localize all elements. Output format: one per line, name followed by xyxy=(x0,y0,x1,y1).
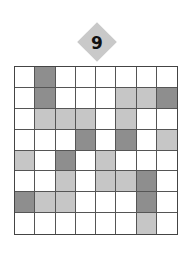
grid-cell-r7-c1[interactable] xyxy=(35,213,55,234)
grid-cell-r6-c2[interactable] xyxy=(56,192,76,213)
grid-cell-r0-c2[interactable] xyxy=(56,67,76,88)
grid-cell-r2-c7[interactable] xyxy=(157,109,177,130)
grid-cell-r0-c3[interactable] xyxy=(76,67,96,88)
grid-cell-r6-c1[interactable] xyxy=(35,192,55,213)
grid-cell-r2-c6[interactable] xyxy=(137,109,157,130)
grid-cell-r3-c2[interactable] xyxy=(56,130,76,151)
grid-cell-r0-c6[interactable] xyxy=(137,67,157,88)
grid-cell-r6-c6[interactable] xyxy=(137,192,157,213)
grid-cell-r5-c1[interactable] xyxy=(35,171,55,192)
grid-cell-r2-c5[interactable] xyxy=(116,109,136,130)
puzzle-grid xyxy=(14,66,178,235)
grid-cell-r0-c1[interactable] xyxy=(35,67,55,88)
grid-cell-r2-c2[interactable] xyxy=(56,109,76,130)
grid-cell-r5-c6[interactable] xyxy=(137,171,157,192)
grid-cell-r5-c2[interactable] xyxy=(56,171,76,192)
grid-cell-r4-c5[interactable] xyxy=(116,151,136,172)
grid-cell-r7-c4[interactable] xyxy=(96,213,116,234)
grid-cell-r6-c3[interactable] xyxy=(76,192,96,213)
grid-cell-r4-c3[interactable] xyxy=(76,151,96,172)
grid-cell-r7-c3[interactable] xyxy=(76,213,96,234)
grid-cell-r1-c7[interactable] xyxy=(157,88,177,109)
grid-cell-r1-c1[interactable] xyxy=(35,88,55,109)
grid-cell-r1-c6[interactable] xyxy=(137,88,157,109)
grid-cell-r5-c5[interactable] xyxy=(116,171,136,192)
grid-cell-r6-c0[interactable] xyxy=(15,192,35,213)
grid-cell-r3-c6[interactable] xyxy=(137,130,157,151)
grid-cell-r4-c6[interactable] xyxy=(137,151,157,172)
grid-cell-r3-c0[interactable] xyxy=(15,130,35,151)
grid-cell-r2-c1[interactable] xyxy=(35,109,55,130)
grid-cell-r4-c1[interactable] xyxy=(35,151,55,172)
grid-cell-r1-c5[interactable] xyxy=(116,88,136,109)
grid-cell-r4-c7[interactable] xyxy=(157,151,177,172)
grid-cell-r1-c4[interactable] xyxy=(96,88,116,109)
grid-cell-r7-c0[interactable] xyxy=(15,213,35,234)
grid-cell-r0-c0[interactable] xyxy=(15,67,35,88)
grid-cell-r6-c4[interactable] xyxy=(96,192,116,213)
grid-cell-r0-c5[interactable] xyxy=(116,67,136,88)
grid-cell-r1-c0[interactable] xyxy=(15,88,35,109)
grid-cell-r2-c0[interactable] xyxy=(15,109,35,130)
grid-cell-r4-c0[interactable] xyxy=(15,151,35,172)
grid-cell-r2-c3[interactable] xyxy=(76,109,96,130)
grid-cell-r2-c4[interactable] xyxy=(96,109,116,130)
grid-cell-r3-c3[interactable] xyxy=(76,130,96,151)
grid-cell-r1-c3[interactable] xyxy=(76,88,96,109)
grid-cell-r0-c7[interactable] xyxy=(157,67,177,88)
grid-cell-r6-c7[interactable] xyxy=(157,192,177,213)
grid-cell-r0-c4[interactable] xyxy=(96,67,116,88)
grid-cell-r5-c0[interactable] xyxy=(15,171,35,192)
grid-cell-r6-c5[interactable] xyxy=(116,192,136,213)
grid-cell-r4-c2[interactable] xyxy=(56,151,76,172)
grid-cell-r3-c4[interactable] xyxy=(96,130,116,151)
grid-cell-r3-c5[interactable] xyxy=(116,130,136,151)
grid-cell-r5-c7[interactable] xyxy=(157,171,177,192)
grid-cell-r3-c7[interactable] xyxy=(157,130,177,151)
grid-cell-r4-c4[interactable] xyxy=(96,151,116,172)
puzzle-number: 9 xyxy=(79,29,115,57)
grid-cell-r7-c5[interactable] xyxy=(116,213,136,234)
grid-cell-r1-c2[interactable] xyxy=(56,88,76,109)
grid-cell-r5-c4[interactable] xyxy=(96,171,116,192)
grid-cell-r3-c1[interactable] xyxy=(35,130,55,151)
grid-cell-r5-c3[interactable] xyxy=(76,171,96,192)
grid-cell-r7-c2[interactable] xyxy=(56,213,76,234)
grid-cell-r7-c7[interactable] xyxy=(157,213,177,234)
grid-cell-r7-c6[interactable] xyxy=(137,213,157,234)
